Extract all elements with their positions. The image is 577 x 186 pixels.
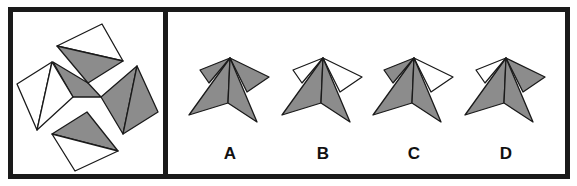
option-b-figure[interactable] [282, 58, 362, 122]
option-a-figure[interactable] [189, 58, 269, 122]
option-d-label[interactable]: D [491, 144, 521, 164]
option-c-figure[interactable] [373, 58, 453, 122]
option-a-label[interactable]: A [215, 144, 245, 164]
option-b-label[interactable]: B [308, 144, 338, 164]
question-figure [17, 24, 158, 171]
option-d-figure[interactable] [465, 58, 545, 122]
option-c-label[interactable]: C [399, 144, 429, 164]
